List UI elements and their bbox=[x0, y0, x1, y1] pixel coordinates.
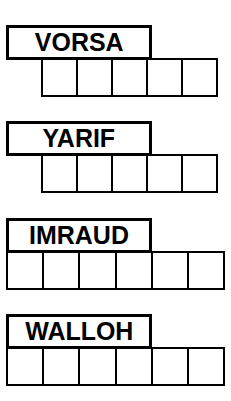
answer-cell[interactable] bbox=[151, 251, 189, 290]
answer-cell-row bbox=[6, 251, 225, 290]
answer-cell-circled[interactable] bbox=[41, 154, 78, 193]
answer-cell[interactable] bbox=[78, 347, 116, 386]
answer-cell[interactable] bbox=[115, 347, 153, 386]
scrambled-word-text: IMRAUD bbox=[29, 222, 129, 249]
answer-cell[interactable] bbox=[41, 58, 78, 97]
scrambled-word-text: WALLOH bbox=[25, 318, 133, 345]
answer-cell-circled[interactable] bbox=[42, 347, 80, 386]
word-label-box: VORSA bbox=[6, 25, 152, 60]
scrambled-word-text: VORSA bbox=[35, 29, 124, 56]
answer-cell-row bbox=[6, 347, 225, 386]
answer-cell[interactable] bbox=[187, 251, 225, 290]
answer-cell[interactable] bbox=[42, 251, 80, 290]
answer-cell[interactable] bbox=[146, 58, 183, 97]
answer-cell[interactable] bbox=[111, 58, 148, 97]
answer-cell[interactable] bbox=[115, 251, 153, 290]
answer-cell-circled[interactable] bbox=[181, 58, 218, 97]
answer-cell[interactable] bbox=[111, 154, 148, 193]
answer-cell[interactable] bbox=[76, 154, 113, 193]
answer-cell-circled[interactable] bbox=[146, 154, 183, 193]
answer-cell-circled[interactable] bbox=[151, 347, 189, 386]
answer-cell-row bbox=[41, 58, 218, 97]
answer-cell[interactable] bbox=[181, 154, 218, 193]
worksheet-canvas: VORSAYARIFIMRAUDWALLOH bbox=[0, 0, 231, 401]
answer-cell[interactable] bbox=[6, 347, 44, 386]
answer-cell-row bbox=[41, 154, 218, 193]
answer-cell[interactable] bbox=[6, 251, 44, 290]
scrambled-word-text: YARIF bbox=[43, 125, 116, 152]
answer-cell[interactable] bbox=[76, 58, 113, 97]
answer-cell-circled[interactable] bbox=[78, 251, 116, 290]
word-label-box: WALLOH bbox=[6, 314, 152, 349]
answer-cell-circled[interactable] bbox=[187, 347, 225, 386]
word-label-box: YARIF bbox=[6, 121, 152, 156]
word-label-box: IMRAUD bbox=[6, 218, 152, 253]
